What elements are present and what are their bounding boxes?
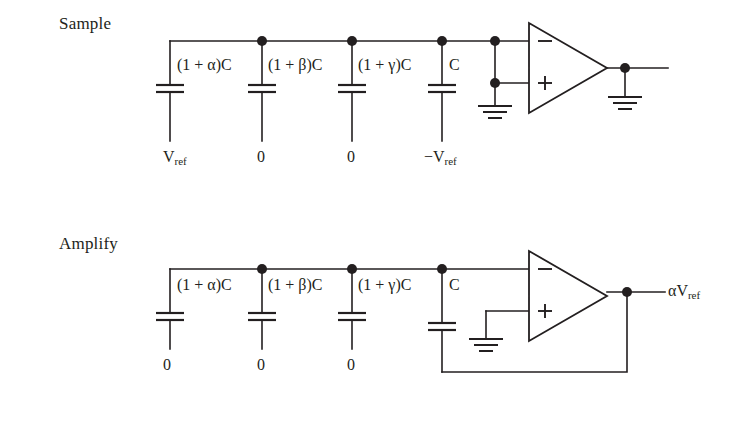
sample-capacitor-1: [156, 41, 184, 141]
sample-output: [607, 63, 668, 109]
amplify-circuit: [156, 251, 665, 372]
sample-circuit: [156, 23, 668, 141]
circuit-figure: Sample Amplify (1 + α)C (1 + β)C (1 + γ)…: [0, 0, 747, 424]
sample-node-3: [347, 36, 357, 46]
amplify-capacitor-3: [338, 264, 366, 349]
sample-capacitor-2: [248, 36, 276, 141]
sample-capacitor-4: [428, 36, 456, 141]
schematic-svg: [0, 0, 747, 424]
amplify-node-2: [257, 264, 267, 274]
sample-capacitor-3: [338, 36, 366, 141]
amplify-node-3: [347, 264, 357, 274]
sample-node-2: [257, 36, 267, 46]
sample-node-minus: [490, 36, 500, 46]
sample-opamp: [529, 23, 607, 113]
amplify-plus-ground-net: [469, 311, 529, 351]
sample-ground-input: [478, 106, 512, 118]
sample-input-short: [490, 36, 529, 105]
amplify-capacitor-2: [248, 264, 276, 349]
amplify-opamp: [529, 251, 607, 341]
sample-node-plus: [490, 78, 500, 88]
amplify-capacitor-1: [156, 269, 184, 349]
sample-node-4: [437, 36, 447, 46]
amplify-node-4: [437, 264, 447, 274]
amplify-capacitor-4: [428, 264, 456, 372]
